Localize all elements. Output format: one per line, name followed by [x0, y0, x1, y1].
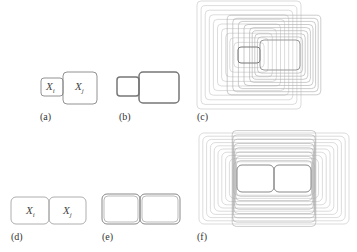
panel-b-box-i — [117, 77, 139, 96]
figure-canvas — [0, 0, 357, 252]
panel-a-var-j: Xj — [75, 80, 84, 95]
panel-d-label: (d) — [11, 231, 23, 242]
panel-b-label: (b) — [119, 111, 131, 122]
panel-e-box-i-outer — [102, 194, 140, 224]
panel-c-contour-i — [205, 10, 293, 100]
panel-f-box-j — [274, 165, 311, 192]
panel-a-label: (a) — [40, 111, 51, 122]
panel-e-box-j-outer — [140, 194, 180, 224]
panel-f-box-i — [237, 165, 274, 192]
panel-c-box-j — [260, 40, 300, 70]
panel-d-var-j: Xj — [63, 204, 72, 219]
panel-c-label: (c) — [197, 111, 208, 122]
panel-c-contour-i — [197, 1, 301, 109]
panel-c-contour-j — [227, 15, 321, 95]
panel-c-contour-j — [238, 21, 315, 88]
panel-c-contour-i — [209, 15, 288, 95]
panel-e-box-i-inner — [104, 196, 138, 222]
panel-c-box-i — [238, 47, 260, 63]
panel-c-contour-i — [201, 6, 297, 105]
panel-b-box-j — [139, 72, 179, 103]
panel-c-contour-i — [213, 19, 284, 90]
panel-a-var-i: Xi — [46, 80, 55, 95]
panel-d-var-i: Xi — [26, 204, 35, 219]
panel-e-box-j-inner — [142, 196, 178, 222]
panel-f-label: (f) — [197, 231, 207, 242]
panel-e-label: (e) — [102, 231, 113, 242]
